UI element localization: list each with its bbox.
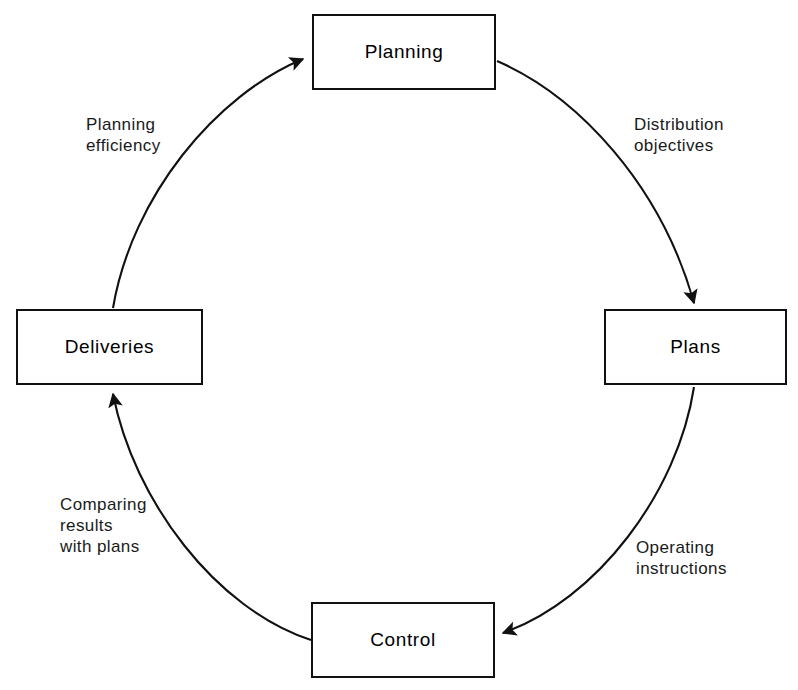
node-deliveries[interactable]: Deliveries [16,309,203,385]
node-planning-label: Planning [365,41,444,63]
edge-plans-to-control [503,387,694,633]
diagram-canvas: Planning Plans Control Deliveries Distri… [0,0,798,690]
node-plans[interactable]: Plans [604,309,787,385]
edge-planning-to-plans [497,61,694,303]
node-plans-label: Plans [670,336,721,358]
node-control[interactable]: Control [311,602,495,678]
edge-label-planning-efficiency: Planning efficiency [86,114,161,156]
edge-deliveries-to-planning [113,59,303,308]
edge-label-distribution-objectives: Distribution objectives [634,114,724,156]
node-deliveries-label: Deliveries [65,336,154,358]
edge-label-operating-instructions: Operating instructions [636,537,727,579]
edge-label-comparing-results-with-plans: Comparing results with plans [60,494,147,557]
node-planning[interactable]: Planning [312,14,496,90]
node-control-label: Control [370,629,435,651]
